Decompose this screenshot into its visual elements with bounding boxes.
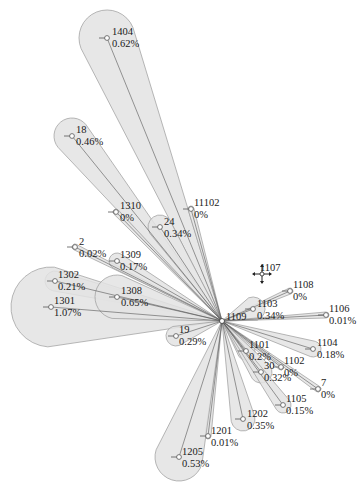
node-marker-2[interactable] bbox=[73, 245, 78, 250]
node-id: 1308 bbox=[121, 285, 148, 297]
node-id: 1404 bbox=[112, 26, 139, 38]
node-percent: 0% bbox=[293, 291, 314, 303]
node-marker-1101[interactable] bbox=[244, 349, 249, 354]
node-percent: 0.21% bbox=[58, 281, 85, 293]
node-marker-18[interactable] bbox=[70, 134, 75, 139]
node-marker-1310[interactable] bbox=[114, 210, 119, 215]
node-marker-1404[interactable] bbox=[105, 36, 110, 41]
node-percent: 0.01% bbox=[211, 437, 238, 449]
node-marker-1202[interactable] bbox=[241, 417, 246, 422]
node-id: 1104 bbox=[317, 337, 344, 349]
node-label-1108: 11080% bbox=[293, 279, 314, 303]
node-label-1103: 11030.34% bbox=[257, 298, 284, 322]
node-id: 7 bbox=[321, 377, 335, 389]
node-marker-24[interactable] bbox=[158, 225, 163, 230]
node-id: 1202 bbox=[247, 408, 274, 420]
node-label-18: 180.46% bbox=[76, 124, 103, 148]
node-marker-7[interactable] bbox=[316, 387, 321, 392]
node-label-1105: 11050.15% bbox=[286, 393, 313, 417]
node-id: 1106 bbox=[329, 303, 356, 315]
node-id: 1108 bbox=[293, 279, 314, 291]
node-label-1404: 14040.62% bbox=[112, 26, 139, 50]
node-label-1106: 11060.01% bbox=[329, 303, 356, 327]
node-percent: 0.15% bbox=[286, 405, 313, 417]
node-id: 18 bbox=[76, 124, 103, 136]
node-marker-1301[interactable] bbox=[49, 305, 54, 310]
node-percent: 0.34% bbox=[257, 310, 284, 322]
node-label-11102: 111020% bbox=[194, 197, 219, 221]
node-percent: 0% bbox=[120, 212, 141, 224]
node-id: 1101 bbox=[249, 339, 271, 351]
node-marker-1308[interactable] bbox=[115, 295, 120, 300]
node-percent: 0.29% bbox=[179, 336, 206, 348]
node-percent: 0.17% bbox=[120, 261, 147, 273]
node-marker-11102[interactable] bbox=[189, 207, 194, 212]
node-marker-1302[interactable] bbox=[53, 279, 58, 284]
node-id: 1103 bbox=[257, 298, 284, 310]
node-label-7: 70% bbox=[321, 377, 335, 401]
node-marker-1103[interactable] bbox=[251, 307, 256, 312]
node-label-30: 300.32% bbox=[264, 360, 291, 384]
node-percent: 0% bbox=[321, 389, 335, 401]
node-percent: 0.62% bbox=[112, 38, 139, 50]
node-percent: 0.18% bbox=[317, 349, 344, 361]
node-id: 30 bbox=[264, 360, 291, 372]
node-percent: 0% bbox=[194, 209, 219, 221]
node-marker-1201[interactable] bbox=[206, 434, 211, 439]
node-id: 1302 bbox=[58, 269, 85, 281]
node-percent: 0.02% bbox=[79, 248, 106, 260]
node-label-1107: 1107 bbox=[260, 262, 281, 274]
node-id: 1107 bbox=[260, 262, 281, 274]
node-percent: 0.46% bbox=[76, 136, 103, 148]
node-id: 1310 bbox=[120, 200, 141, 212]
node-id: 19 bbox=[179, 324, 206, 336]
node-label-1302: 13020.21% bbox=[58, 269, 85, 293]
node-id: 1109 bbox=[226, 311, 247, 323]
node-percent: 0.65% bbox=[121, 297, 148, 309]
node-percent: 0.34% bbox=[164, 228, 191, 240]
node-marker-1108[interactable] bbox=[288, 289, 293, 294]
node-id: 1301 bbox=[54, 295, 81, 307]
node-percent: 0.32% bbox=[264, 372, 291, 384]
node-label-1201: 12010.01% bbox=[211, 425, 238, 449]
node-percent: 0.53% bbox=[182, 458, 209, 470]
node-label-1309: 13090.17% bbox=[120, 249, 147, 273]
node-id: 1201 bbox=[211, 425, 238, 437]
node-marker-1106[interactable] bbox=[324, 313, 329, 318]
node-label-1308: 13080.65% bbox=[121, 285, 148, 309]
node-label-1301: 13011.07% bbox=[54, 295, 81, 319]
node-marker-1105[interactable] bbox=[281, 403, 286, 408]
node-label-19: 190.29% bbox=[179, 324, 206, 348]
node-id: 1105 bbox=[286, 393, 313, 405]
node-id: 1309 bbox=[120, 249, 147, 261]
node-percent: 0.35% bbox=[247, 420, 274, 432]
node-label-1205: 12050.53% bbox=[182, 446, 209, 470]
node-label-24: 240.34% bbox=[164, 216, 191, 240]
bubble-petals bbox=[11, 10, 329, 481]
node-marker-1205[interactable] bbox=[177, 455, 182, 460]
node-marker-30[interactable] bbox=[259, 370, 264, 375]
node-label-1310: 13100% bbox=[120, 200, 141, 224]
node-marker-1104[interactable] bbox=[311, 347, 316, 352]
node-id: 1205 bbox=[182, 446, 209, 458]
node-id: 2 bbox=[79, 236, 106, 248]
node-marker-19[interactable] bbox=[174, 334, 179, 339]
node-label-1104: 11040.18% bbox=[317, 337, 344, 361]
node-percent: 0.01% bbox=[329, 315, 356, 327]
node-label-1109: 1109 bbox=[226, 311, 247, 323]
node-label-1202: 12020.35% bbox=[247, 408, 274, 432]
node-percent: 1.07% bbox=[54, 307, 81, 319]
node-id: 11102 bbox=[194, 197, 219, 209]
node-marker-1309[interactable] bbox=[115, 259, 120, 264]
radial-diagram bbox=[0, 0, 361, 492]
node-label-2: 20.02% bbox=[79, 236, 106, 260]
node-id: 24 bbox=[164, 216, 191, 228]
hub-node[interactable] bbox=[220, 319, 225, 324]
